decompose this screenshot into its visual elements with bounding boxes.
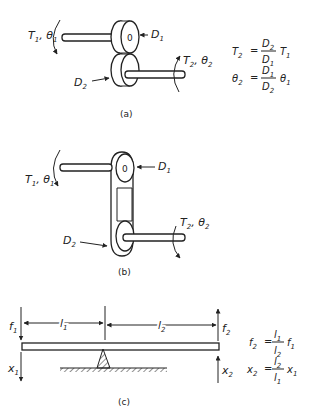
hub-mark: 0 <box>127 33 133 43</box>
d1-label: D1 <box>151 28 164 43</box>
hub-mark: 0 <box>122 164 128 174</box>
svg-text:T2: T2 <box>232 46 243 60</box>
input-rotation-arrow <box>53 150 60 186</box>
f1-label: f1 <box>9 320 17 335</box>
fulcrum <box>60 349 167 372</box>
f2-label: f2 <box>222 322 231 337</box>
svg-text:f2: f2 <box>249 337 258 351</box>
output-shaft <box>125 71 185 78</box>
x1-label: x1 <box>7 362 19 377</box>
svg-text:l1: l1 <box>274 329 281 343</box>
equation-force: f2 = l1 l2 f1 <box>249 329 295 359</box>
svg-text:θ2: θ2 <box>232 73 243 87</box>
input-torque-label: T1, θ1 <box>25 173 54 188</box>
d2-pointer <box>80 242 107 246</box>
output-torque-label: T2, θ2 <box>180 216 210 231</box>
caption-c: (c) <box>118 397 130 407</box>
equation-torque: T2 = D2 D1 T1 <box>232 38 291 68</box>
svg-text:=: = <box>250 72 258 83</box>
d2-label: D2 <box>74 76 87 91</box>
svg-text:T1: T1 <box>280 46 291 60</box>
equation-displacement: x2 = l2 l1 x1 <box>246 356 297 386</box>
input-shaft <box>62 34 114 41</box>
mechanical-transmission-diagram: 0 T1, θ1 D1 D2 T2, θ2 (a) T2 = D2 <box>0 0 312 417</box>
input-torque-label: T1, θ1 <box>28 29 57 44</box>
panel-a-gear-pair: 0 T1, θ1 D1 D2 T2, θ2 (a) T2 = D2 <box>28 20 291 119</box>
svg-text:=: = <box>264 336 272 347</box>
caption-a: (a) <box>120 109 133 119</box>
l1-label: l1 <box>60 317 68 332</box>
svg-text:l1: l1 <box>274 372 281 386</box>
svg-text:f1: f1 <box>287 337 295 351</box>
svg-text:=: = <box>264 363 272 374</box>
svg-text:D2: D2 <box>262 38 275 52</box>
lever-beam <box>22 343 219 350</box>
svg-text:=: = <box>250 45 258 56</box>
input-shaft <box>60 164 112 171</box>
l2-label: l2 <box>158 319 166 334</box>
output-shaft <box>123 234 185 241</box>
d2-label: D2 <box>63 234 76 249</box>
pulley-d1: 0 <box>116 154 134 182</box>
equation-angle: θ2 = D1 D2 θ1 <box>232 65 291 95</box>
wheel-d2 <box>111 54 139 86</box>
svg-text:x2: x2 <box>246 364 258 378</box>
svg-text:x1: x1 <box>286 364 297 378</box>
d1-label: D1 <box>158 160 171 175</box>
caption-b: (b) <box>118 267 131 277</box>
svg-text:θ1: θ1 <box>280 73 291 87</box>
wheel-d1: 0 <box>111 21 139 53</box>
x2-label: x2 <box>221 364 234 379</box>
panel-b-belt-drive: 0 T1, θ1 D1 D2 T2, θ2 (b) <box>25 150 210 277</box>
output-torque-label: T2, θ2 <box>183 54 213 69</box>
output-rotation-arrow <box>173 226 180 258</box>
panel-c-lever: f1 x1 l1 l2 f2 x2 (c) f2 = l1 l2 f1 x2 =… <box>7 306 297 407</box>
svg-text:D2: D2 <box>262 81 275 95</box>
d2-pointer <box>92 78 109 81</box>
